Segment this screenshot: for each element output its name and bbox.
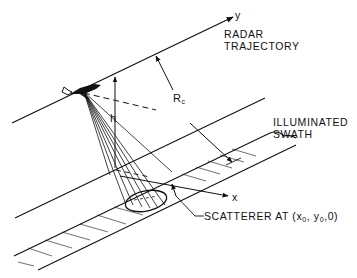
swath-lower-edge [38,145,296,270]
swath-label-line1: ILLUMINATED [273,116,348,128]
radar-trajectory-line [12,17,233,123]
range-label: Rc [173,92,186,108]
radar-trajectory-label-line1: RADAR [224,28,264,40]
height-label: h [110,112,117,124]
swath-label-line2: SWATH [273,128,313,140]
range-label-sub: c [182,98,186,105]
scatterer-label: SCATTERER AT (x0, y0,0) [204,210,338,226]
x-axis-label: x [232,191,238,203]
radar-trajectory-label-line2: TRAJECTORY [224,40,300,52]
range-arrow-lower [190,123,232,162]
scatterer-leader [176,196,204,216]
range-arrow-upper [156,56,173,90]
y-axis-label: y [235,9,241,21]
range-label-main: R [173,92,182,104]
